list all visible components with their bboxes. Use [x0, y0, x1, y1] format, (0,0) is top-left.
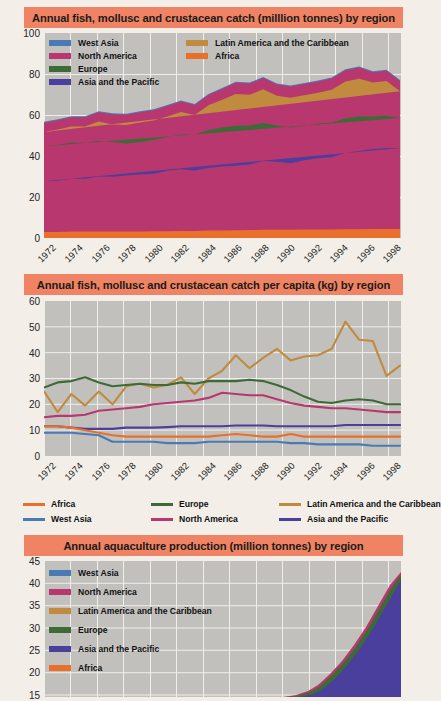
legend-item-asia-pacific-c2: Asia and the Pacific [279, 513, 429, 525]
ytick-catch-total-20: 20 [8, 193, 40, 203]
xtick-c1-1994: 1994 [321, 242, 350, 271]
xtick-c1-1972: 1972 [29, 242, 58, 271]
legend-swatch-europe-c3 [49, 627, 71, 633]
legend-item-north-america-c3: North America [49, 582, 212, 601]
xtick-c2-1986: 1986 [215, 460, 244, 489]
ytick-catch-total-0: 0 [8, 234, 40, 244]
legend-catch-total-col1: West Asia North America Europe Asia and … [49, 36, 159, 88]
legend-swatch-latin-america-c3 [49, 608, 71, 614]
legend-item-latin-america-c2: Latin America and the Caribbean [279, 498, 429, 510]
xtick-c1-1986: 1986 [215, 242, 244, 271]
legend-item-asia-pacific-c3: Asia and the Pacific [49, 639, 212, 658]
plot-area-aquaculture: West Asia North America Latin America an… [44, 561, 401, 697]
legend-swatch-latin-america [186, 40, 208, 46]
xtick-c2-1972: 1972 [29, 460, 58, 489]
xtick-c1-1992: 1992 [295, 242, 324, 271]
legend-item-europe: Europe [49, 62, 159, 75]
legend-item-west-asia: West Asia [49, 36, 159, 49]
plot-area-catch-total: West Asia North America Europe Asia and … [44, 33, 401, 238]
legend-label-west-asia-c2: West Asia [51, 514, 92, 524]
chart-title-aquaculture: Annual aquaculture production (million t… [24, 535, 403, 556]
legend-swatch-africa [186, 53, 208, 59]
ytick-c2-20: 20 [8, 400, 40, 410]
legend-label-europe-c2: Europe [179, 499, 209, 509]
ytick-catch-total-40: 40 [8, 152, 40, 162]
legend-label-asia-pacific: Asia and the Pacific [78, 77, 159, 87]
ytick-c3-15: 15 [8, 691, 40, 701]
ytick-c3-40: 40 [8, 579, 40, 589]
xtick-c1-1996: 1996 [348, 242, 377, 271]
legend-item-europe-c3: Europe [49, 620, 212, 639]
xtick-c1-1976: 1976 [83, 242, 112, 271]
legend-item-africa: Africa [186, 49, 349, 62]
ytick-c3-35: 35 [8, 601, 40, 611]
ytick-c3-30: 30 [8, 624, 40, 634]
legend-item-asia-pacific: Asia and the Pacific [49, 75, 159, 88]
ytick-catch-total-80: 80 [8, 70, 40, 80]
legend-catch-total-col2: Latin America and the Caribbean Africa [186, 36, 349, 62]
legend-catch-per-capita: Africa Europe Latin America and the Cari… [23, 498, 429, 525]
legend-swatch-north-america-c2 [151, 518, 173, 521]
ytick-c2-0: 0 [8, 452, 40, 462]
legend-label-north-america-c2: North America [179, 514, 238, 524]
ytick-c2-60: 60 [8, 297, 40, 307]
legend-label-latin-america: Latin America and the Caribbean [215, 38, 349, 48]
legend-label-africa-c3: Africa [78, 663, 102, 673]
legend-label-north-america: North America [78, 51, 137, 61]
legend-label-latin-america-c2: Latin America and the Caribbean [307, 499, 441, 509]
legend-label-europe: Europe [78, 64, 108, 74]
legend-aquaculture: West Asia North America Latin America an… [49, 563, 212, 677]
xtick-c1-1990: 1990 [268, 242, 297, 271]
legend-item-africa-c3: Africa [49, 658, 212, 677]
legend-item-latin-america: Latin America and the Caribbean [186, 36, 349, 49]
plot-area-catch-per-capita [44, 301, 401, 456]
legend-label-asia-pacific-c2: Asia and the Pacific [307, 514, 388, 524]
legend-swatch-west-asia [49, 40, 71, 46]
legend-swatch-asia-pacific [49, 79, 71, 85]
xtick-c2-1976: 1976 [83, 460, 112, 489]
legend-label-europe-c3: Europe [78, 625, 108, 635]
chart-title-catch-total: Annual fish, mollusc and crustacean catc… [24, 7, 403, 28]
ytick-catch-total-60: 60 [8, 111, 40, 121]
legend-swatch-west-asia-c3 [49, 570, 71, 576]
xtick-c2-1974: 1974 [56, 460, 85, 489]
xtick-c2-1984: 1984 [189, 460, 218, 489]
xtick-c2-1978: 1978 [109, 460, 138, 489]
legend-item-west-asia-c2: West Asia [23, 513, 151, 525]
ytick-c2-50: 50 [8, 323, 40, 333]
ytick-c2-30: 30 [8, 374, 40, 384]
xtick-c1-1984: 1984 [189, 242, 218, 271]
legend-swatch-africa-c3 [49, 665, 71, 671]
legend-label-west-asia: West Asia [78, 38, 119, 48]
legend-label-africa: Africa [215, 51, 239, 61]
legend-label-north-america-c3: North America [78, 587, 137, 597]
xtick-c2-1998: 1998 [374, 460, 403, 489]
xtick-c1-1974: 1974 [56, 242, 85, 271]
legend-swatch-africa-c2 [23, 503, 45, 506]
legend-swatch-north-america [49, 53, 71, 59]
legend-item-west-asia-c3: West Asia [49, 563, 212, 582]
legend-item-north-america: North America [49, 49, 159, 62]
xtick-c1-1988: 1988 [242, 242, 271, 271]
legend-label-africa-c2: Africa [51, 499, 75, 509]
legend-item-africa-c2: Africa [23, 498, 151, 510]
ytick-c3-25: 25 [8, 646, 40, 656]
ytick-c2-10: 10 [8, 426, 40, 436]
legend-swatch-asia-pacific-c3 [49, 646, 71, 652]
ytick-c2-40: 40 [8, 349, 40, 359]
legend-swatch-europe-c2 [151, 503, 173, 506]
xtick-c2-1990: 1990 [268, 460, 297, 489]
xtick-c2-1992: 1992 [295, 460, 324, 489]
legend-label-latin-america-c3: Latin America and the Caribbean [78, 606, 212, 616]
legend-item-latin-america-c3: Latin America and the Caribbean [49, 601, 212, 620]
ytick-catch-total-100: 100 [8, 29, 40, 39]
chart-title-catch-per-capita: Annual fish, mollusc and crustacean catc… [24, 274, 403, 295]
legend-swatch-latin-america-c2 [279, 503, 301, 506]
xtick-c1-1998: 1998 [374, 242, 403, 271]
xtick-c2-1994: 1994 [321, 460, 350, 489]
xtick-c1-1982: 1982 [162, 242, 191, 271]
legend-swatch-europe [49, 66, 71, 72]
ytick-c3-45: 45 [8, 557, 40, 567]
xtick-c1-1980: 1980 [136, 242, 165, 271]
